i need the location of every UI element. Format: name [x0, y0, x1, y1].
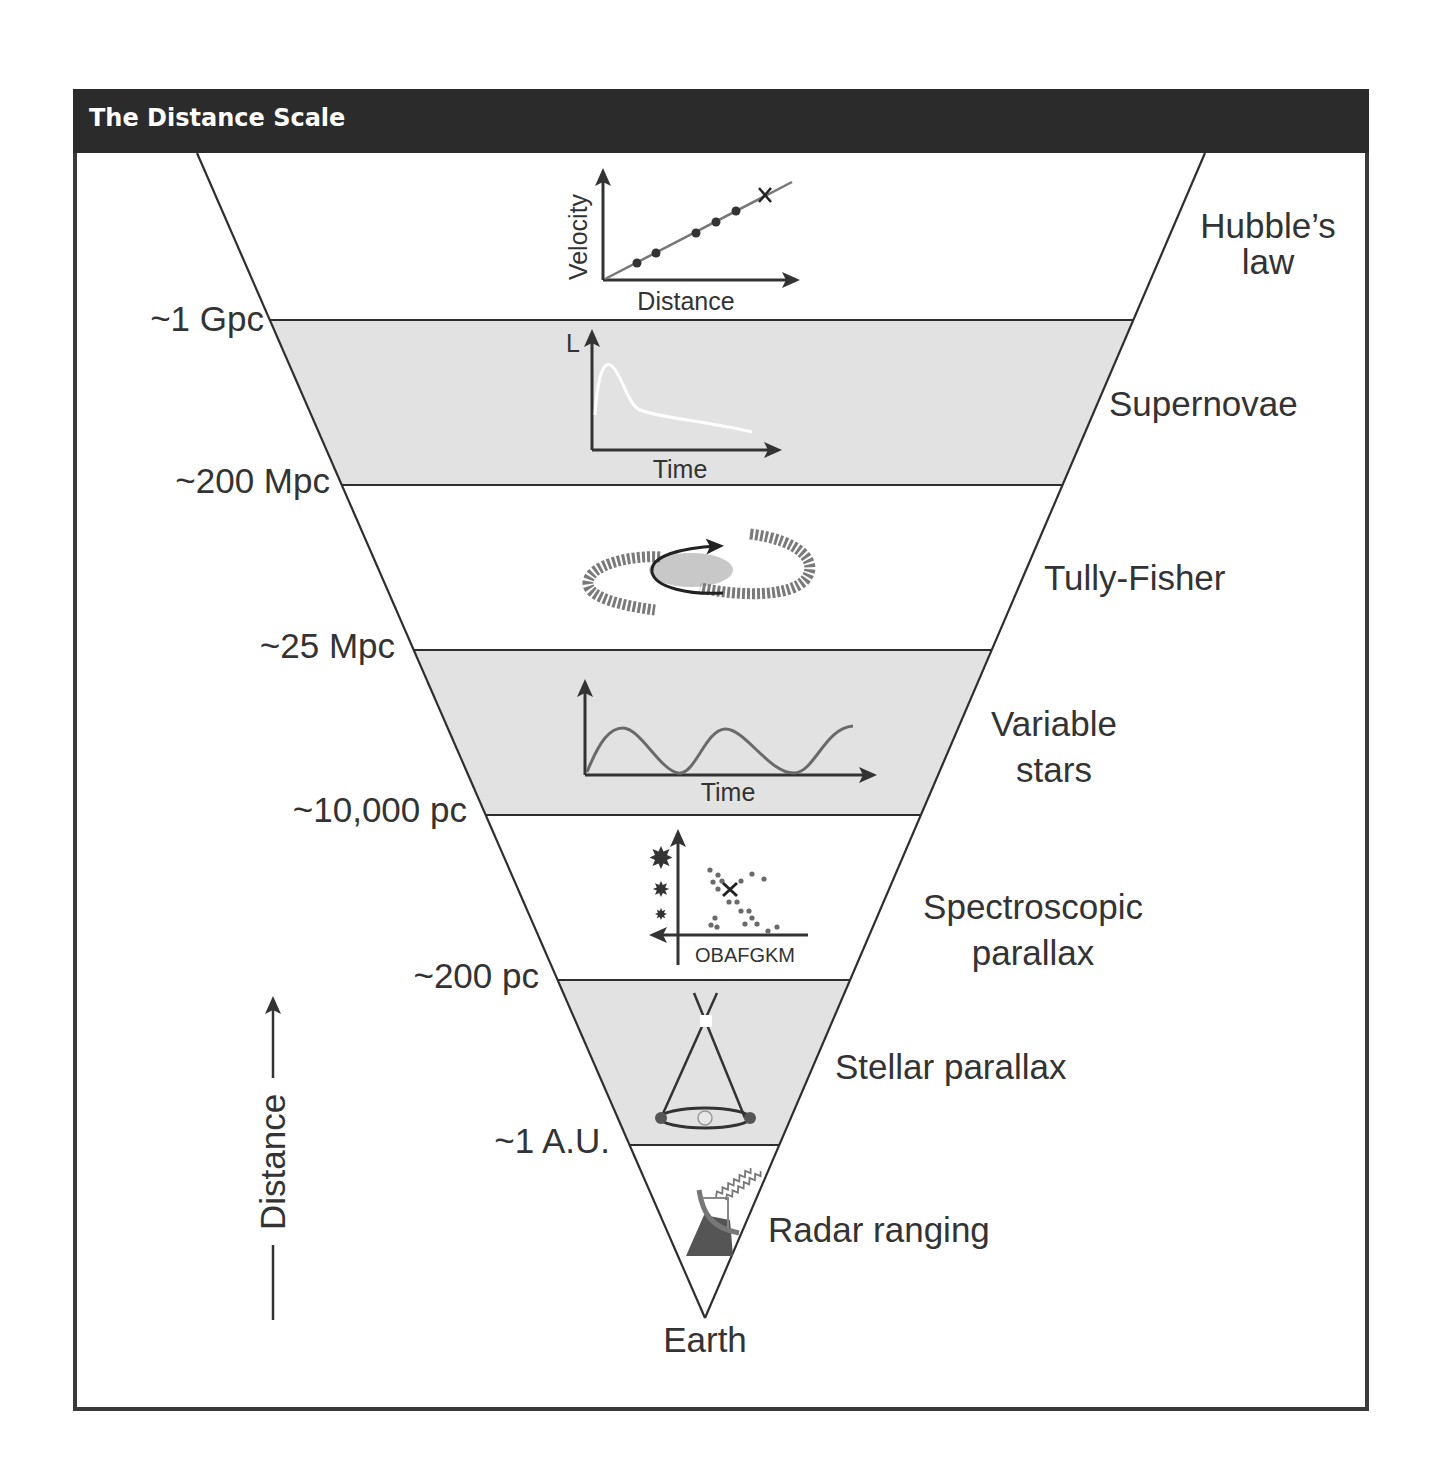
method-label-spectroscopic-parallax-line2: parallax — [972, 933, 1095, 972]
boundary-label: ~1 Gpc — [150, 299, 264, 338]
distance-axis-label: Distance — [253, 1094, 292, 1230]
time-axis-label: Time — [701, 778, 756, 806]
medium-star-icon — [653, 881, 669, 897]
boundary-label: ~1 A.U. — [494, 1121, 610, 1160]
boundary-label: ~200 Mpc — [175, 461, 330, 500]
boundary-label: ~200 pc — [413, 956, 539, 995]
figure-title: The Distance Scale — [89, 104, 345, 132]
method-label-hubbles-law-line2: law — [1242, 242, 1295, 281]
distance-axis-label-small: Distance — [637, 287, 734, 315]
data-point — [732, 207, 741, 216]
sun-icon — [698, 1111, 712, 1125]
large-star-icon — [650, 846, 673, 869]
boundary-label: ~10,000 pc — [293, 790, 467, 829]
nearby-star-icon — [700, 1015, 712, 1027]
time-axis-label: Time — [653, 455, 708, 483]
luminosity-axis-label: L — [566, 329, 580, 357]
distance-scale-diagram: The Distance Scale ~1 Gpc ~200 Mpc ~25 M… — [0, 0, 1436, 1481]
earth-position-icon — [655, 1112, 667, 1124]
earth-position-icon — [744, 1112, 756, 1124]
method-label-tully-fisher: Tully-Fisher — [1044, 558, 1226, 597]
data-point — [633, 259, 642, 268]
method-label-variable-stars: Variable — [991, 704, 1117, 743]
header-bar: The Distance Scale — [73, 89, 1369, 153]
data-point — [712, 218, 721, 227]
data-point — [652, 249, 661, 258]
velocity-axis-label: Velocity — [564, 193, 592, 280]
method-label-hubbles-law: Hubble’s — [1200, 206, 1336, 245]
spectral-class-label: OBAFGKM — [695, 944, 795, 966]
method-label-radar-ranging: Radar ranging — [768, 1210, 990, 1249]
method-label-variable-stars-line2: stars — [1016, 750, 1092, 789]
method-label-spectroscopic-parallax: Spectroscopic — [923, 887, 1143, 926]
boundary-label: ~25 Mpc — [260, 626, 395, 665]
earth-label: Earth — [663, 1320, 747, 1359]
small-star-icon — [655, 908, 667, 920]
method-label-stellar-parallax: Stellar parallax — [835, 1047, 1067, 1086]
method-label-supernovae: Supernovae — [1109, 384, 1298, 423]
data-point — [692, 229, 701, 238]
